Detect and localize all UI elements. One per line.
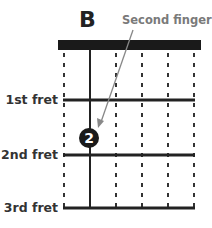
- finger-number: 2: [79, 128, 99, 148]
- fretboard-diagram: [0, 0, 212, 228]
- fret-lines: [63, 100, 195, 208]
